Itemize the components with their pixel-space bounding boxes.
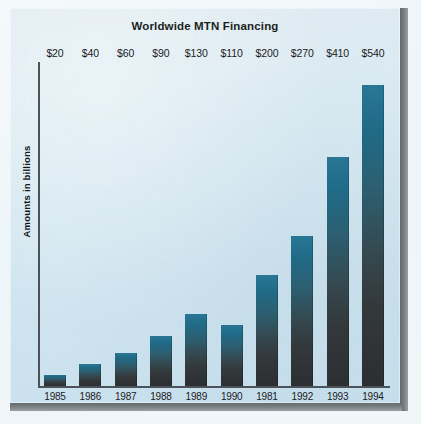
x-axis-label: 1987 bbox=[115, 391, 137, 402]
x-axis-label: 1994 bbox=[362, 391, 384, 402]
bar: $40 bbox=[79, 364, 101, 386]
card-shadow-bottom bbox=[10, 402, 402, 411]
bar-value-label: $540 bbox=[361, 47, 384, 59]
x-axis-label: 1988 bbox=[150, 391, 172, 402]
chart-screenshot: Worldwide MTN Financing Amounts in billi… bbox=[0, 0, 421, 424]
bar-slot: $200 bbox=[256, 62, 278, 386]
bar-series: $20$40$60$90$130$110$200$270$410$540 bbox=[40, 62, 388, 386]
bar-slot: $60 bbox=[115, 62, 137, 386]
bar-value-label: $200 bbox=[255, 47, 278, 59]
bar-value-label: $40 bbox=[82, 47, 99, 59]
x-axis-label: 1990 bbox=[221, 391, 243, 402]
bar-value-label: $60 bbox=[117, 47, 134, 59]
bar-slot: $40 bbox=[79, 62, 101, 386]
bar: $110 bbox=[221, 325, 243, 386]
bar-value-label: $110 bbox=[221, 47, 243, 59]
card-shadow-right bbox=[399, 8, 408, 411]
y-axis-title: Amounts in billions bbox=[21, 132, 32, 252]
bar-slot: $540 bbox=[362, 62, 384, 386]
bar-slot: $110 bbox=[221, 62, 243, 386]
x-axis-line bbox=[38, 386, 390, 388]
bar-slot: $130 bbox=[185, 62, 207, 386]
bar-slot: $20 bbox=[44, 62, 66, 386]
bar-value-label: $130 bbox=[185, 47, 208, 59]
plot-area: $20$40$60$90$130$110$200$270$410$540 bbox=[38, 62, 390, 388]
bar: $270 bbox=[291, 236, 313, 387]
x-axis-label: 1993 bbox=[327, 391, 349, 402]
bar-value-label: $270 bbox=[291, 47, 314, 59]
chart-card: Worldwide MTN Financing Amounts in billi… bbox=[10, 8, 400, 403]
bar-value-label: $410 bbox=[326, 47, 349, 59]
bar-slot: $410 bbox=[327, 62, 349, 386]
bar-value-label: $90 bbox=[152, 47, 169, 59]
bar: $410 bbox=[327, 157, 349, 386]
bar-value-label: $20 bbox=[46, 47, 63, 59]
bar-slot: $270 bbox=[291, 62, 313, 386]
bar: $60 bbox=[115, 353, 137, 387]
chart-title: Worldwide MTN Financing bbox=[10, 20, 400, 32]
bar: $200 bbox=[256, 275, 278, 387]
x-axis-tick-labels: 1985198619871988198919901981199219931994 bbox=[40, 391, 388, 402]
x-axis-label: 1989 bbox=[185, 391, 207, 402]
bar: $20 bbox=[44, 375, 66, 386]
x-axis-label: 1985 bbox=[44, 391, 66, 402]
bar: $540 bbox=[362, 85, 384, 387]
bar: $130 bbox=[185, 314, 207, 387]
x-axis-label: 1986 bbox=[79, 391, 101, 402]
x-axis-label: 1992 bbox=[291, 391, 313, 402]
bar-slot: $90 bbox=[150, 62, 172, 386]
bar: $90 bbox=[150, 336, 172, 386]
x-axis-label: 1981 bbox=[256, 391, 278, 402]
